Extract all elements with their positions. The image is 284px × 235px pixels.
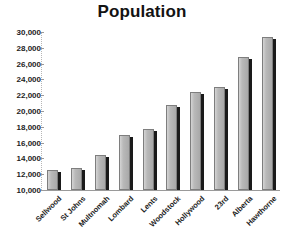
bar-body [214,87,225,190]
bar [166,105,180,190]
y-axis-tick-label: 18,000 [2,122,41,131]
bar [214,87,228,190]
bar-shadow [82,170,85,190]
bar-shadow [225,89,228,190]
y-axis-tick-mark [41,190,44,191]
y-axis-tick-mark [41,64,44,65]
x-axis-tick-label: Hawthorne [245,194,279,228]
bar-body [166,105,177,190]
bar [190,92,204,190]
bar-body [95,155,106,190]
bar-body [119,135,130,190]
y-axis-tick-label: 22,000 [2,91,41,100]
y-axis-tick-label: 20,000 [2,107,41,116]
y-axis-tick-label: 26,000 [2,59,41,68]
y-axis-tick-label: 30,000 [2,28,41,37]
y-axis-tick-label: 10,000 [2,186,41,195]
bar [262,37,276,190]
bar-body [47,170,58,190]
y-axis-tick-label: 14,000 [2,154,41,163]
bar [71,168,85,190]
y-axis-tick-mark [41,79,44,80]
bar-body [190,92,201,190]
bar-shadow [201,94,204,190]
y-axis-tick-label: 16,000 [2,138,41,147]
x-axis-tick-label: Lents [138,194,159,215]
y-axis: 30,00028,00026,00024,00022,00020,00018,0… [0,0,41,235]
y-axis-tick-mark [41,111,44,112]
bar [238,57,252,190]
bar-shadow [58,172,61,190]
bar [119,135,133,190]
y-axis-tick-mark [41,174,44,175]
bar-body [143,129,154,190]
chart-title: Population [0,2,284,22]
x-axis-tick-label: Multnomah [76,194,111,229]
bar-shadow [273,39,276,190]
bar-shadow [130,137,133,190]
y-axis-tick-label: 24,000 [2,75,41,84]
bar [95,155,109,190]
x-axis-tick-label: Woodstock [148,194,183,229]
bar-body [262,37,273,190]
x-axis-tick-label: Hollywood [174,194,207,227]
x-axis-line [41,190,280,191]
x-axis-tick-label: 23rd [213,194,231,212]
y-axis-tick-label: 28,000 [2,43,41,52]
y-axis-tick-mark [41,143,44,144]
bar-shadow [249,59,252,190]
bar-shadow [154,131,157,190]
bar-body [238,57,249,190]
bar-shadow [106,157,109,190]
bar-body [71,168,82,190]
y-axis-tick-mark [41,48,44,49]
y-axis-tick-mark [41,95,44,96]
chart-page: Population 30,00028,00026,00024,00022,00… [0,0,284,235]
x-axis-tick-label: St Johns [58,194,87,223]
y-axis-tick-label: 12,000 [2,170,41,179]
y-axis-tick-mark [41,127,44,128]
bar [143,129,157,190]
bar [47,170,61,190]
y-axis-tick-mark [41,158,44,159]
y-axis-tick-mark [41,32,44,33]
x-axis-tick-label: Lombard [106,194,135,223]
x-axis-tick-label: Alberta [230,194,255,219]
bar-shadow [177,107,180,190]
plot-area [41,32,280,190]
